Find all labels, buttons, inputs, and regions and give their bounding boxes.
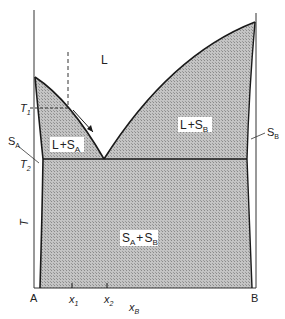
label-liquid: L [101,53,108,67]
label-sb: SB [267,126,279,140]
label-a: A [30,292,38,304]
label-liquid-plus-sb: L+SB [178,117,212,134]
label-t2: T2 [20,158,31,172]
label-sa: SA [8,135,20,149]
svg-text:SA+SB: SA+SB [122,231,158,247]
label-b: B [251,292,258,304]
label-solid-mix: SA+SB [120,230,158,247]
label-t-axis: T [18,218,30,226]
label-x1: x1 [68,293,79,307]
label-t1: T1 [20,102,31,116]
label-x2: x2 [103,293,114,307]
region-solid-mix [40,159,252,288]
region-liquid-plus-sb [104,22,255,159]
label-xb: xB [128,301,140,315]
phase-diagram: L L+SA L+SB SA+SB SA SB T1 T2 T A B x1 x… [0,0,285,319]
sb-leader-line [251,133,265,139]
label-liquid-plus-sa: L+SA [50,137,84,154]
